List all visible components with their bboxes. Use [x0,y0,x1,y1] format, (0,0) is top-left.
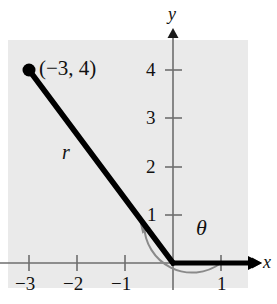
plotted-point [23,64,36,77]
angle-label: θ [196,217,207,239]
x-tick-label-1: 1 [217,274,227,293]
polar-angle-figure: (−3, 4) r θ y x 4 3 2 1 −3 −2 −1 1 [0,0,277,304]
y-axis-label: y [168,5,176,23]
point-coordinate-label: (−3, 4) [39,58,96,79]
x-tick-label-minus-3: −3 [15,274,35,293]
y-tick-label-2: 2 [146,157,156,176]
y-axis-arrowhead [168,28,179,38]
coordinate-plane-graphic [0,0,277,304]
x-axis-label: x [263,253,271,271]
y-tick-label-3: 3 [146,108,156,127]
radius-label: r [62,142,70,162]
y-tick-label-1: 1 [147,205,157,224]
y-tick-label-4: 4 [146,60,156,79]
x-tick-label-minus-1: −1 [111,274,131,293]
x-tick-label-minus-2: −2 [63,274,83,293]
initial-side-arrowhead [248,256,262,270]
